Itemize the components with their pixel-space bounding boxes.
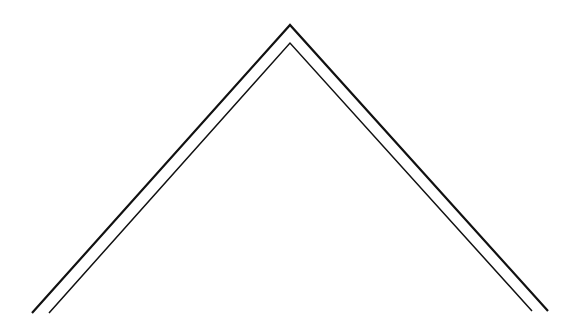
outer-chevron-line [32,25,548,313]
chevron-drawing [0,0,586,329]
diagram-canvas: Two nested chevron (roof-shaped) lines [0,0,586,329]
inner-chevron-line [49,43,532,313]
